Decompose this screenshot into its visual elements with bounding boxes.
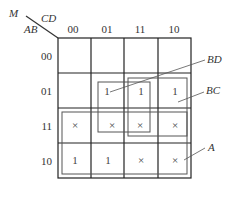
cell: × xyxy=(72,119,78,131)
cell: 1 xyxy=(104,85,110,97)
group-a-label: A xyxy=(207,141,215,153)
cell: × xyxy=(138,154,144,166)
cell: × xyxy=(109,119,115,131)
cell: 1 xyxy=(72,154,78,166)
col-header: 00 xyxy=(68,23,80,35)
cell: 1 xyxy=(172,85,178,97)
row-header: 10 xyxy=(41,155,53,167)
cell: × xyxy=(172,119,178,131)
group-bc-label: BC xyxy=(206,84,221,96)
cell: 1 xyxy=(105,154,111,166)
col-header: 10 xyxy=(169,23,181,35)
row-header: 01 xyxy=(41,85,52,97)
var-m-label: M xyxy=(8,7,19,19)
cell: × xyxy=(172,154,178,166)
row-header: 00 xyxy=(41,50,53,62)
cells: 1 1 1 × × × × 1 1 × × xyxy=(72,85,178,166)
cell: × xyxy=(137,119,143,131)
row-headers: 00 01 11 10 xyxy=(41,50,53,167)
row-header: 11 xyxy=(41,120,52,132)
group-bd-label: BD xyxy=(207,53,222,65)
col-vars-label: CD xyxy=(41,12,56,24)
karnaugh-map: M CD AB 00 01 11 10 00 01 11 10 1 1 1 × … xyxy=(0,0,238,198)
col-header: 11 xyxy=(135,23,146,35)
column-headers: 00 01 11 10 xyxy=(68,23,181,35)
row-vars-label: AB xyxy=(23,23,38,35)
cell: 1 xyxy=(138,85,144,97)
col-header: 01 xyxy=(102,23,113,35)
